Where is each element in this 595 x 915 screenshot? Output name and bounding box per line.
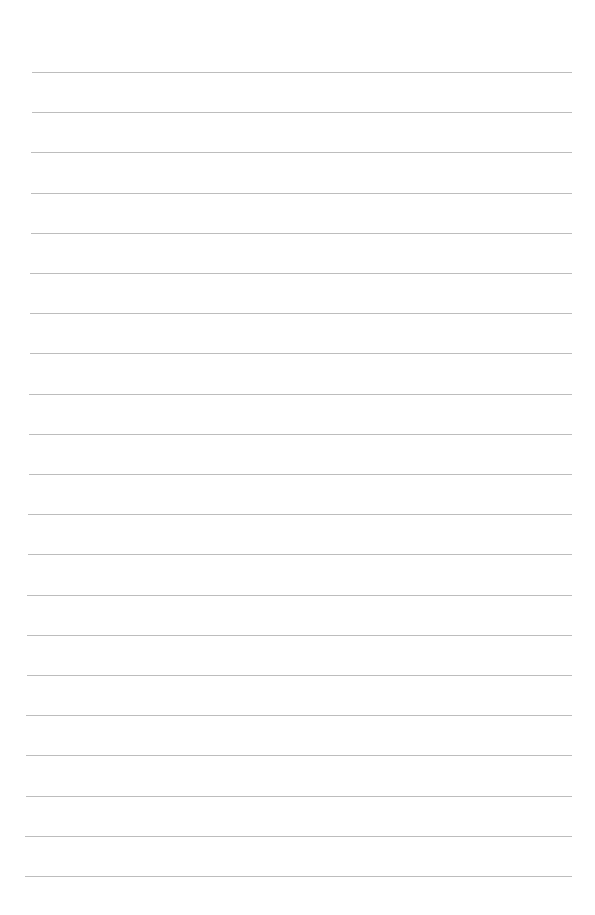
ruled-line [28,554,572,555]
ruled-line [26,715,572,716]
ruled-line [30,353,572,354]
ruled-line [25,876,572,877]
ruled-line [29,434,572,435]
ruled-paper-page [0,0,595,915]
ruled-line [27,595,572,596]
ruled-line [32,72,572,73]
ruled-line [28,514,572,515]
ruled-line [30,273,572,274]
ruled-line [27,675,572,676]
ruled-line [31,233,572,234]
ruled-line [30,313,572,314]
ruled-line [31,193,572,194]
ruled-line [26,755,572,756]
ruled-line [25,836,572,837]
ruled-line [27,635,572,636]
ruled-line [26,796,572,797]
ruled-line [31,152,572,153]
ruled-line [29,394,572,395]
ruled-line [32,112,572,113]
ruled-line [29,474,572,475]
